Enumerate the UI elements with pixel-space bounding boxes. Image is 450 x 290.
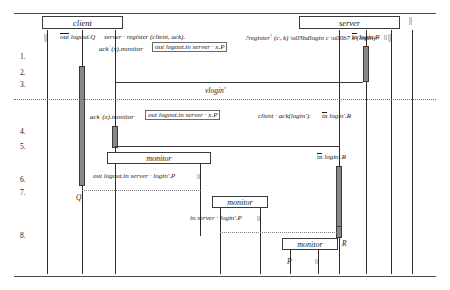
participant-label-client: client bbox=[73, 18, 92, 28]
term-server-in-loginp-R-inline: in login'.R bbox=[322, 112, 351, 120]
monitor-box-mid-label: monitor bbox=[146, 154, 171, 163]
activation-server bbox=[363, 46, 369, 82]
par-marker-after-server-term: || bbox=[384, 33, 387, 41]
par-marker-far-right: || bbox=[409, 16, 412, 25]
term-client-continuation: out logout.in server · login'.P bbox=[93, 172, 175, 180]
row-label-6: 6. bbox=[20, 175, 26, 184]
par-marker-top-right: || bbox=[388, 33, 391, 42]
boxed-term-client-2: out logout.in server · x.P bbox=[145, 110, 220, 120]
row-label-3: 3. bbox=[20, 80, 26, 89]
monitor-box-bottom-label: monitor bbox=[297, 240, 322, 249]
label-Q: Q bbox=[76, 193, 81, 202]
bottom-rule bbox=[14, 276, 436, 277]
monitor-box-lower-label: monitor bbox=[227, 198, 252, 207]
label-P: P bbox=[287, 257, 292, 266]
term-client-in-server: in server · login'.P bbox=[190, 214, 242, 222]
row-label-7: 7. bbox=[20, 188, 26, 197]
par-marker-row6: || bbox=[197, 172, 200, 180]
participant-box-server[interactable]: server bbox=[299, 16, 400, 29]
lifeline-monitor-mid-r bbox=[200, 158, 201, 236]
activation-server-login bbox=[336, 166, 342, 232]
row-label-4: 4. bbox=[20, 127, 26, 136]
monitor-box-lower[interactable]: monitor bbox=[212, 196, 268, 208]
participant-label-server: server bbox=[339, 18, 360, 28]
par-marker-bottom: || bbox=[315, 257, 318, 265]
row-label-8: 8. bbox=[20, 231, 26, 240]
label-R: R bbox=[342, 239, 347, 248]
term-client-out-logout: outout logout.Q logout.Q bbox=[60, 33, 95, 41]
row-label-5: 5. bbox=[20, 142, 26, 151]
lifeline-par-far-right bbox=[412, 30, 413, 274]
overline-out: out bbox=[60, 33, 69, 41]
lifeline-monitor-mid-l bbox=[115, 152, 116, 274]
activation-client bbox=[79, 66, 85, 186]
par-marker-row8: || bbox=[257, 214, 260, 222]
lifeline-par-right bbox=[391, 30, 392, 274]
term-client-ack-monitor-2: ack+(x).monitor bbox=[90, 112, 134, 121]
restriction-dotted-line bbox=[14, 99, 436, 100]
row-label-1: 1. bbox=[20, 52, 26, 61]
top-rule bbox=[14, 13, 436, 14]
lifeline-monitor-low-r bbox=[260, 202, 261, 274]
boxed-term-client-1-text: out logout.in server · x.P bbox=[155, 43, 224, 51]
message-ack-arrow bbox=[115, 146, 339, 147]
monitor-box-bottom[interactable]: monitor bbox=[282, 238, 338, 250]
sequence-diagram-canvas: client server 1. 2. 3. 4. 5. 6. 7. 8. ||… bbox=[0, 0, 450, 290]
term-server-in-loginp-R: in login'.R bbox=[317, 153, 346, 161]
term-client-ack-monitor: ack+(x).monitor bbox=[99, 44, 143, 53]
participant-box-client[interactable]: client bbox=[42, 16, 123, 29]
monitor-box-mid[interactable]: monitor bbox=[107, 152, 211, 164]
par-marker-top-left: || bbox=[44, 33, 47, 42]
message-register-arrow bbox=[115, 82, 363, 83]
boxed-term-client-2-text: out logout.in server · x.P bbox=[148, 111, 217, 119]
boxed-term-client-1: out logout.in server · x.P bbox=[152, 42, 227, 52]
term-server-in-login-R: in login.R bbox=[352, 33, 380, 41]
lifeline-par-left bbox=[47, 30, 48, 274]
row8-dotted-connector bbox=[220, 232, 339, 233]
term-server-client-ack: client · ack(login'). bbox=[258, 112, 311, 120]
row-label-2: 2. bbox=[20, 68, 26, 77]
term-client-register: server · register (client, ack). bbox=[104, 33, 185, 41]
activation-client-ack bbox=[112, 126, 118, 148]
restriction-label: νlogin' bbox=[205, 86, 225, 95]
row7-dotted-connector bbox=[82, 190, 201, 191]
